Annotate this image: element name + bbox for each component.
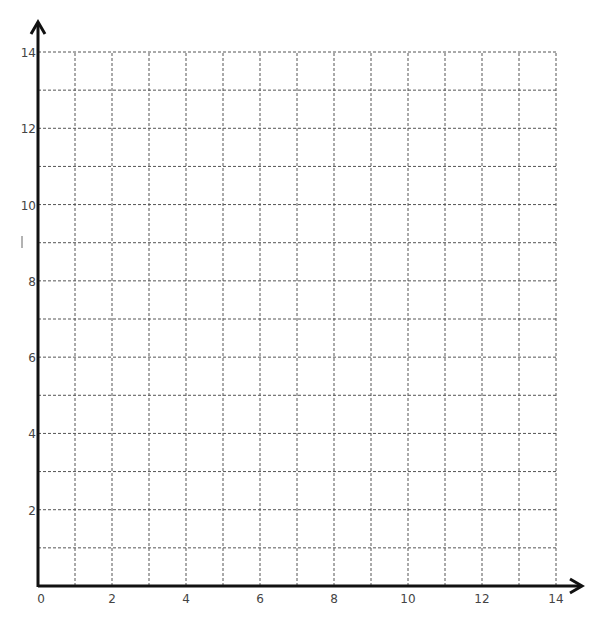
y-tick-label: 2: [28, 504, 36, 518]
axes: [31, 22, 582, 593]
x-tick-label: 10: [400, 592, 415, 606]
y-tick-label: 10: [21, 199, 36, 213]
y-tick-label: 4: [28, 427, 36, 441]
x-tick-labels: 02468101214: [37, 592, 563, 606]
x-tick-label: 14: [548, 592, 563, 606]
x-tick-label: 8: [330, 592, 338, 606]
y-tick-label: 8: [28, 275, 36, 289]
x-tick-label: 6: [256, 592, 264, 606]
x-tick-label: 0: [37, 592, 45, 606]
y-tick-label: 14: [21, 46, 36, 60]
x-tick-label: 4: [182, 592, 190, 606]
y-tick-label: 6: [28, 351, 36, 365]
coordinate-grid-chart: 02468101214 2468101214: [0, 0, 603, 625]
x-tick-label: 2: [108, 592, 116, 606]
x-tick-label: 12: [474, 592, 489, 606]
y-tick-label: 12: [21, 122, 36, 136]
grid-lines: [38, 52, 556, 586]
y-tick-labels: 2468101214: [21, 46, 36, 518]
